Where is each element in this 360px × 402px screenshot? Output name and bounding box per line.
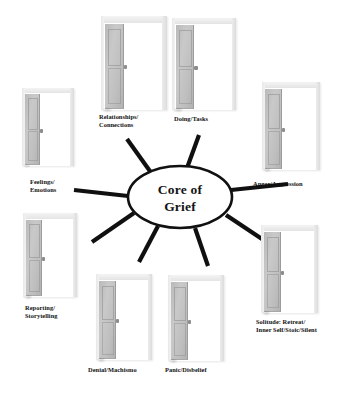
door-shadow — [102, 107, 113, 113]
door-doing-tasks[interactable] — [172, 18, 236, 110]
door-panel — [26, 220, 42, 296]
core-label-line-2: Grief — [164, 198, 196, 215]
label-feelings-emotions: Feelings/ Emotions — [30, 178, 92, 194]
door-knob-icon — [194, 66, 197, 70]
door-right-jamb — [316, 82, 320, 170]
core-label-line-1: Core of — [158, 181, 202, 198]
label-denial-machismo: Denial/Machismo — [88, 366, 168, 374]
door-knob-icon — [281, 271, 284, 275]
door-left-jamb — [172, 18, 175, 110]
door-solitude-retreat[interactable] — [261, 225, 318, 313]
door-knob-icon — [40, 129, 43, 133]
door-shadow — [263, 167, 272, 172]
door-relationships-connections[interactable] — [101, 16, 167, 110]
label-solitude-retreat: Solitude: Retreat/ Inner Self/Stoic/Sile… — [256, 318, 360, 334]
door-knob-icon — [188, 320, 191, 324]
door-panel — [176, 25, 195, 109]
door-header-jamb — [168, 275, 224, 281]
label-relationships-connections: Relationships/ Connections — [99, 113, 169, 129]
spoke-to-denial-machismo — [139, 226, 158, 262]
grief-doors-diagram: Core of Grief Relationships/ Connections… — [0, 0, 360, 402]
door-right-jamb — [162, 16, 167, 110]
door-panel — [99, 281, 115, 359]
door-denial-machismo[interactable] — [96, 274, 152, 360]
label-anger-aggression: Anger/Aggression — [253, 180, 353, 188]
label-reporting-storytelling: Reporting/ Storytelling — [25, 304, 97, 320]
door-panel — [264, 232, 281, 312]
door-reporting-storytelling[interactable] — [23, 213, 77, 297]
door-right-jamb — [70, 88, 74, 166]
door-panel — [265, 89, 282, 169]
door-panel — [105, 24, 124, 110]
door-right-jamb — [232, 18, 236, 110]
door-panel — [171, 282, 187, 360]
door-knob-icon — [124, 65, 127, 69]
door-header-jamb — [101, 16, 167, 23]
door-header-jamb — [23, 213, 77, 219]
label-panic-disbelief: Panic/Disbelief — [165, 366, 243, 374]
door-shadow — [262, 310, 271, 315]
door-knob-icon — [116, 319, 119, 323]
door-shadow — [97, 357, 106, 362]
spoke-to-doing-tasks — [187, 135, 199, 168]
door-feelings-emotions[interactable] — [22, 88, 74, 166]
door-right-jamb — [148, 274, 152, 360]
door-anger-aggression[interactable] — [262, 82, 320, 170]
door-left-jamb — [262, 82, 265, 170]
label-doing-tasks: Doing/Tasks — [174, 115, 244, 123]
door-right-jamb — [314, 225, 318, 313]
door-header-jamb — [96, 274, 152, 280]
door-shadow — [23, 164, 31, 169]
door-left-jamb — [101, 16, 104, 110]
core-of-grief-label: Core of Grief — [128, 170, 232, 226]
door-knob-icon — [42, 257, 45, 261]
door-header-jamb — [172, 18, 236, 24]
door-panel — [25, 94, 40, 165]
door-header-jamb — [261, 225, 318, 231]
door-shadow — [173, 107, 183, 113]
door-header-jamb — [22, 88, 74, 93]
spoke-to-panic-disbelief — [195, 228, 208, 266]
door-panic-disbelief[interactable] — [168, 275, 224, 361]
spoke-to-relationships-connections — [127, 139, 152, 174]
door-header-jamb — [262, 82, 320, 88]
door-shadow — [169, 358, 178, 363]
door-shadow — [24, 294, 33, 299]
door-right-jamb — [220, 275, 224, 361]
door-left-jamb — [261, 225, 264, 313]
door-right-jamb — [73, 213, 77, 297]
